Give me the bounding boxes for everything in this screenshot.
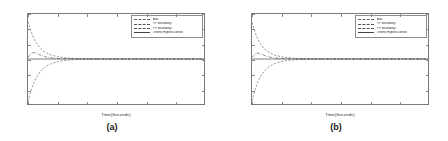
legend-item: Offline-Hybrid control bbox=[358, 31, 424, 35]
legend-a: ANC PP boundary PP boundary Offline-Hybr… bbox=[131, 15, 203, 38]
x-axis-label-a: Time(Seconds) bbox=[27, 112, 205, 117]
y-tick-mark bbox=[202, 91, 205, 92]
y-tick-mark bbox=[426, 75, 429, 76]
legend-b: ANC PP boundary PP boundary Offline-Hybr… bbox=[355, 15, 427, 38]
legend-label: PP boundary bbox=[153, 27, 172, 30]
y-tick-mark bbox=[252, 45, 255, 46]
legend-label: Offline-Hybrid control bbox=[377, 31, 408, 34]
legend-line-icon bbox=[358, 24, 374, 25]
y-tick-mark bbox=[426, 29, 429, 30]
x-tick-mark bbox=[28, 14, 29, 17]
x-tick-mark bbox=[117, 14, 118, 17]
y-tick-mark bbox=[252, 60, 255, 61]
legend-label: PP boundary bbox=[377, 22, 396, 25]
x-tick-mark bbox=[341, 14, 342, 17]
x-tick-mark bbox=[176, 14, 177, 17]
legend-line-icon bbox=[134, 24, 150, 25]
legend-label: Offline-Hybrid control bbox=[153, 31, 184, 34]
y-tick-mark bbox=[426, 14, 429, 15]
y-tick-mark bbox=[426, 91, 429, 92]
x-tick-mark bbox=[58, 14, 59, 17]
x-tick-mark bbox=[147, 102, 148, 105]
x-axis-label-b: Time(Seconds) bbox=[251, 112, 429, 117]
y-tick-mark bbox=[252, 75, 255, 76]
y-tick-mark bbox=[28, 91, 31, 92]
legend-line-icon bbox=[358, 32, 374, 33]
y-tick-mark bbox=[426, 45, 429, 46]
legend-line-icon bbox=[358, 28, 374, 29]
legend-line-icon bbox=[134, 28, 150, 29]
legend-line-icon bbox=[134, 19, 150, 20]
x-tick-mark bbox=[58, 102, 59, 105]
y-tick-mark bbox=[28, 75, 31, 76]
y-tick-mark bbox=[202, 14, 205, 15]
legend-line-icon bbox=[358, 19, 374, 20]
y-tick-mark bbox=[202, 75, 205, 76]
y-tick-mark bbox=[28, 60, 31, 61]
y-tick-mark bbox=[252, 29, 255, 30]
y-tick-mark bbox=[202, 29, 205, 30]
plot-area-a: ANC PP boundary PP boundary Offline-Hybr… bbox=[27, 13, 205, 105]
y-tick-mark bbox=[28, 45, 31, 46]
x-tick-mark bbox=[176, 102, 177, 105]
x-tick-mark bbox=[252, 102, 253, 105]
panel-a: ANC PP boundary PP boundary Offline-Hybr… bbox=[0, 0, 224, 141]
x-tick-mark bbox=[252, 14, 253, 17]
legend-line-icon bbox=[134, 32, 150, 33]
series-line bbox=[252, 59, 428, 101]
x-tick-mark bbox=[28, 102, 29, 105]
x-tick-mark bbox=[400, 14, 401, 17]
x-tick-mark bbox=[371, 14, 372, 17]
panel-caption-a: (a) bbox=[0, 122, 224, 132]
y-tick-mark bbox=[202, 45, 205, 46]
x-tick-mark bbox=[311, 102, 312, 105]
y-tick-mark bbox=[202, 60, 205, 61]
plot-area-b: ANC PP boundary PP boundary Offline-Hybr… bbox=[251, 13, 429, 105]
y-tick-mark bbox=[426, 60, 429, 61]
x-tick-mark bbox=[282, 14, 283, 17]
panel-b: ANC PP boundary PP boundary Offline-Hybr… bbox=[224, 0, 448, 141]
legend-label: PP boundary bbox=[153, 22, 172, 25]
legend-item: Offline-Hybrid control bbox=[134, 31, 200, 35]
legend-label: ANC bbox=[153, 18, 160, 21]
x-tick-mark bbox=[341, 102, 342, 105]
x-tick-mark bbox=[87, 14, 88, 17]
x-tick-mark bbox=[311, 14, 312, 17]
panel-caption-b: (b) bbox=[224, 122, 448, 132]
figure-two-panel-plot: ANC PP boundary PP boundary Offline-Hybr… bbox=[0, 0, 448, 141]
series-line bbox=[28, 59, 204, 102]
x-tick-mark bbox=[147, 14, 148, 17]
x-tick-mark bbox=[117, 102, 118, 105]
x-tick-mark bbox=[282, 102, 283, 105]
y-tick-mark bbox=[28, 29, 31, 30]
y-tick-mark bbox=[252, 91, 255, 92]
x-tick-mark bbox=[371, 102, 372, 105]
x-tick-mark bbox=[400, 102, 401, 105]
legend-label: PP boundary bbox=[377, 27, 396, 30]
x-tick-mark bbox=[87, 102, 88, 105]
legend-label: ANC bbox=[377, 18, 384, 21]
